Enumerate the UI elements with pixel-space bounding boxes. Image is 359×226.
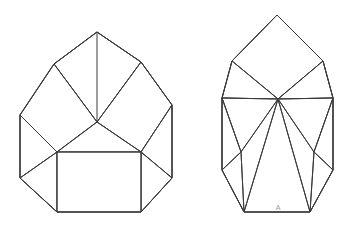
net-diagrams-svg: A: [0, 0, 359, 226]
face-bottom-square: [57, 152, 141, 212]
vertex-label-a: A: [276, 204, 281, 211]
diagram-canvas: A: [0, 0, 359, 226]
right-net-diagram: A: [222, 15, 333, 212]
left-net-diagram: [20, 32, 172, 212]
